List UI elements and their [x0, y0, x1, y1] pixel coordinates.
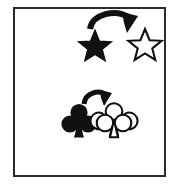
- diagram-panel-frame: [13, 7, 166, 177]
- shape-transformation-diagram: filled star curved arrow pointing right …: [0, 0, 178, 184]
